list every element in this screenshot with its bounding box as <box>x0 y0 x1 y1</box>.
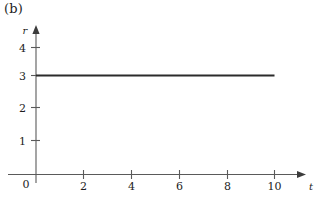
x-axis-arrowhead <box>297 171 306 178</box>
x-tick-label-4: 4 <box>128 180 135 193</box>
y-tick-label-4: 4 <box>19 42 26 55</box>
y-axis-arrowhead <box>32 25 39 34</box>
x-tick-label-2: 2 <box>80 180 87 193</box>
y-tick-label-3: 3 <box>19 70 26 83</box>
origin-label: 0 <box>23 178 30 191</box>
x-tick-label-6: 6 <box>176 180 183 193</box>
plot-area: 4 3 2 1 0 2 4 6 8 10 r t <box>0 0 320 198</box>
x-axis-label: t <box>309 181 314 192</box>
x-tick-label-10: 10 <box>268 180 282 193</box>
x-tick-label-8: 8 <box>224 180 231 193</box>
y-tick-label-2: 2 <box>19 102 26 115</box>
y-tick-label-1: 1 <box>19 135 26 148</box>
figure-container: (b) 4 3 2 1 0 2 4 6 8 10 r <box>0 0 320 198</box>
y-axis-label: r <box>23 25 29 36</box>
